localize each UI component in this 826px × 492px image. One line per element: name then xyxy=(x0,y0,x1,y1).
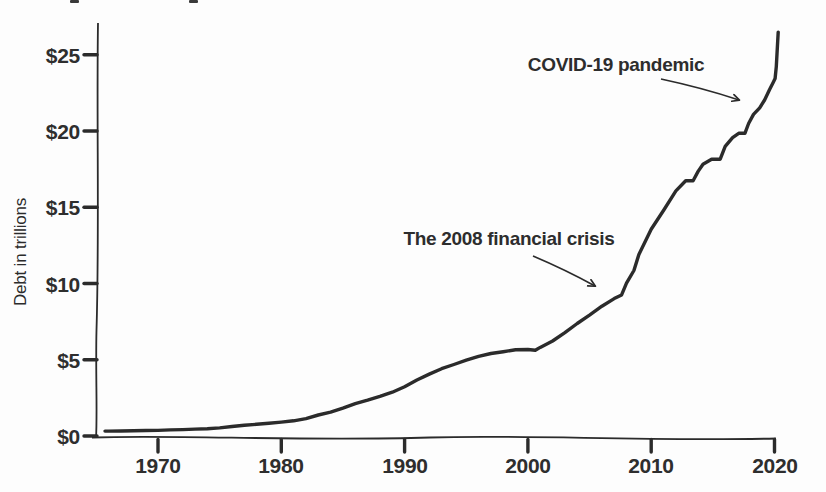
arrow-2008-crisis xyxy=(533,256,595,286)
y-tick-label: $20 xyxy=(20,121,80,142)
x-tick-label: 2000 xyxy=(488,455,568,476)
arrow-covid xyxy=(661,79,739,100)
x-axis-line xyxy=(92,437,776,440)
y-tick-label: $25 xyxy=(20,45,80,66)
x-tick-label: 1970 xyxy=(118,455,198,476)
y-axis-title: Debt in trillions xyxy=(11,172,31,332)
x-tick-label: 2020 xyxy=(735,455,815,476)
y-axis-line xyxy=(96,23,98,438)
annotation-covid: COVID-19 pandemic xyxy=(506,54,726,76)
y-tick-label: $10 xyxy=(20,274,80,295)
y-tick-label: $0 xyxy=(20,426,80,447)
y-tick-label: $5 xyxy=(20,350,80,371)
annotation-2008-crisis: The 2008 financial crisis xyxy=(393,228,625,250)
x-tick-label: 2010 xyxy=(611,455,691,476)
x-tick-label: 1990 xyxy=(365,455,445,476)
debt-chart-figure: Debt in trillions The 2008 financial cri… xyxy=(0,0,826,492)
x-tick-label: 1980 xyxy=(241,455,321,476)
y-tick-label: $15 xyxy=(20,197,80,218)
